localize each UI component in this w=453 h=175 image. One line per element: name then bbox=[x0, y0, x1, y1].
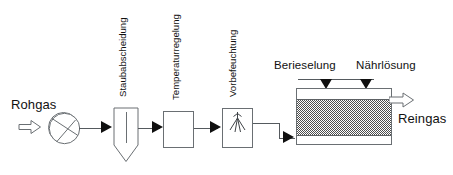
stage-label-temperaturregelung: Temperaturregelung bbox=[171, 14, 181, 100]
stage-label-staubabscheidung: Staubabscheidung bbox=[118, 18, 128, 97]
process-flow-diagram: Staubabscheidung Temperaturregelung Vorb… bbox=[0, 0, 453, 175]
outlet-stream-label: Reingas bbox=[398, 112, 446, 125]
feed-label-naehrloesung: Nährlösung bbox=[356, 60, 416, 72]
solid-triangle-right-icon bbox=[283, 131, 294, 143]
solid-triangle-right-icon bbox=[101, 121, 112, 133]
pipe-humidifier-horizontal bbox=[253, 123, 280, 124]
rectangle-unit-icon bbox=[163, 111, 194, 148]
hollow-arrow-right-icon bbox=[18, 119, 42, 135]
fan-blower-icon bbox=[48, 112, 79, 143]
solid-triangle-right-icon bbox=[210, 121, 221, 133]
inlet-stream-label: Rohgas bbox=[11, 98, 56, 111]
cyclone-separator-icon bbox=[113, 107, 139, 163]
filter-bed-icon bbox=[296, 88, 392, 145]
pipe-blower-to-cyclone bbox=[79, 128, 103, 129]
pipe-humidifier-drop bbox=[279, 123, 280, 139]
filter-bed-media bbox=[297, 99, 391, 136]
hollow-arrow-right-icon bbox=[389, 92, 415, 108]
stage-label-vorbefeuchtung: Vorbefeuchtung bbox=[228, 30, 238, 97]
solid-triangle-right-icon bbox=[152, 121, 163, 133]
spray-nozzle-icon bbox=[222, 108, 253, 148]
feed-label-berieselung: Berieselung bbox=[274, 60, 336, 72]
